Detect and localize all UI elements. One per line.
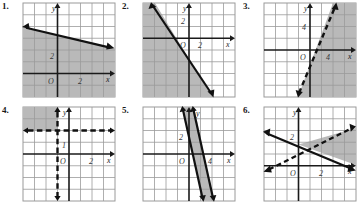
panel-2-x-tick: 2: [198, 41, 202, 50]
panel-4-origin-label: O: [60, 157, 66, 166]
panel-1-x-tick: 2: [78, 77, 82, 86]
panel-2-number: 2.: [122, 1, 129, 11]
panel-5-number: 5.: [122, 105, 129, 115]
panel-3-y-axis-label: y: [303, 4, 308, 13]
panel-1-x-axis-label: x: [105, 75, 110, 84]
panel-3: 3.: [241, 0, 359, 104]
panel-5-x-axis-label: x: [226, 156, 231, 165]
panel-3-y-tick: 4: [302, 23, 306, 32]
panel-6: 6.: [241, 104, 359, 208]
panel-1-plot: y x O 2 2: [22, 2, 116, 98]
panel-1: 1.: [0, 0, 118, 104]
panel-5-x-tick: 4: [208, 157, 212, 166]
panel-3-plot: y x O 4 4: [263, 2, 357, 98]
panel-1-y-axis-label: y: [51, 4, 56, 13]
panel-1-origin-label: O: [48, 77, 54, 86]
panel-5-origin-label: O: [179, 157, 185, 166]
panel-4: 4.: [0, 104, 118, 208]
panel-5-plot: y x O 2 4: [142, 106, 236, 202]
panel-4-y-axis-label: y: [62, 108, 67, 117]
panel-4-number: 4.: [2, 105, 9, 115]
panel-6-number: 6.: [243, 105, 250, 115]
panel-6-x-axis-label: x: [347, 167, 352, 176]
panel-1-y-tick: 2: [50, 52, 54, 61]
panel-1-number: 1.: [2, 1, 9, 11]
panel-2-plot: y x O 2 2: [142, 2, 236, 98]
panel-5-y-axis-label: y: [195, 109, 200, 118]
panel-2-y-tick: 2: [181, 17, 185, 26]
panel-2-origin-label: O: [180, 41, 186, 50]
panel-5: 5.: [120, 104, 238, 208]
panel-2-x-axis-label: x: [225, 40, 230, 49]
panel-3-x-axis-label: x: [347, 52, 352, 61]
panel-4-y-tick: 1: [62, 141, 66, 150]
panel-4-x-tick: 2: [89, 157, 93, 166]
worksheet-figure: 1.: [0, 0, 360, 208]
panel-3-x-tick: 4: [326, 53, 330, 62]
panel-6-y-tick: 2: [290, 133, 294, 142]
panel-4-x-axis-label: x: [106, 156, 111, 165]
panel-6-x-tick: 2: [319, 169, 323, 178]
panel-4-plot: y x O 1 2: [22, 106, 116, 202]
panel-6-plot: y x O 2 2: [263, 106, 357, 202]
panel-3-number: 3.: [243, 1, 250, 11]
panel-6-origin-label: O: [290, 169, 296, 178]
panel-2: 2.: [120, 0, 238, 104]
panel-6-y-axis-label: y: [292, 108, 297, 117]
panel-2-y-axis-label: y: [182, 4, 187, 13]
panel-5-y-tick: 2: [179, 133, 183, 142]
panel-3-origin-label: O: [300, 53, 306, 62]
